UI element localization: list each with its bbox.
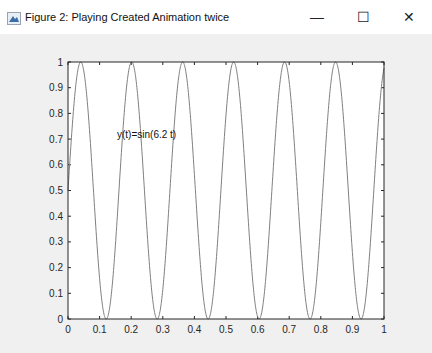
minimize-button[interactable]: — bbox=[294, 0, 340, 34]
maximize-icon: ☐ bbox=[357, 9, 370, 25]
y-tick-label: 0.7 bbox=[49, 134, 63, 145]
y-tick-label: 0.3 bbox=[49, 236, 63, 247]
y-tick-label: 0.1 bbox=[49, 288, 63, 299]
minimize-icon: — bbox=[310, 9, 324, 25]
x-tick-label: 0.5 bbox=[219, 324, 233, 335]
x-tick-label: 0.1 bbox=[93, 324, 107, 335]
figure-canvas: 00.10.20.30.40.50.60.70.80.9100.10.20.30… bbox=[0, 34, 432, 353]
matlab-figure-icon bbox=[7, 12, 21, 25]
y-tick-label: 0.4 bbox=[49, 211, 63, 222]
close-button[interactable]: ✕ bbox=[386, 0, 432, 34]
y-tick-label: 1 bbox=[57, 57, 63, 68]
line-chart[interactable]: 00.10.20.30.40.50.60.70.80.9100.10.20.30… bbox=[0, 34, 432, 353]
curve-annotation: y(t)=sin(6.2 t) bbox=[117, 129, 176, 140]
window-title: Figure 2: Playing Created Animation twic… bbox=[25, 11, 229, 23]
maximize-button[interactable]: ☐ bbox=[340, 0, 386, 34]
x-tick-label: 0.2 bbox=[124, 324, 138, 335]
y-tick-label: 0 bbox=[57, 314, 63, 325]
y-tick-label: 0.6 bbox=[49, 159, 63, 170]
x-tick-label: 0.8 bbox=[314, 324, 328, 335]
y-tick-label: 0.8 bbox=[49, 108, 63, 119]
x-tick-label: 0 bbox=[65, 324, 71, 335]
x-tick-label: 0.4 bbox=[187, 324, 201, 335]
x-tick-label: 1 bbox=[381, 324, 387, 335]
y-tick-label: 0.9 bbox=[49, 82, 63, 93]
x-tick-label: 0.9 bbox=[345, 324, 359, 335]
x-tick-label: 0.3 bbox=[156, 324, 170, 335]
y-tick-label: 0.2 bbox=[49, 262, 63, 273]
x-tick-label: 0.7 bbox=[282, 324, 296, 335]
x-tick-label: 0.6 bbox=[251, 324, 265, 335]
y-tick-label: 0.5 bbox=[49, 185, 63, 196]
axes-background bbox=[68, 62, 384, 319]
title-bar: Figure 2: Playing Created Animation twic… bbox=[0, 0, 432, 34]
close-icon: ✕ bbox=[403, 9, 415, 25]
